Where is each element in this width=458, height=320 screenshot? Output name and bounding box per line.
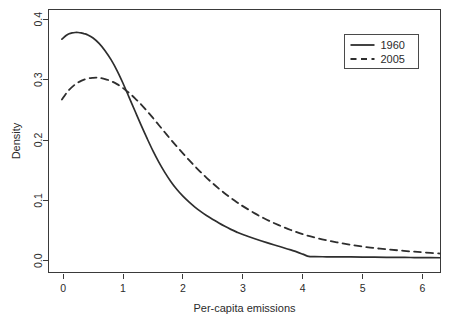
x-tick-label: 5 [360, 282, 366, 294]
series-line-2005 [62, 78, 441, 254]
y-axis-title: Density [10, 122, 22, 159]
y-tick-label: 0.2 [33, 133, 45, 148]
x-tick-label: 6 [420, 282, 426, 294]
y-tick-label: 0.4 [33, 12, 45, 27]
x-tick-label: 3 [240, 282, 246, 294]
legend-group: 19602005 [345, 35, 419, 69]
x-tick-label: 4 [300, 282, 306, 294]
x-tick-label: 1 [120, 282, 126, 294]
y-tick-label: 0.3 [33, 72, 45, 87]
y-tick-label: 0.1 [33, 193, 45, 208]
x-tick-label: 0 [60, 282, 66, 294]
x-axis-title: Per-capita emissions [193, 302, 296, 314]
chart-figure: 01234560.00.10.20.30.4 Per-capita emissi… [0, 0, 458, 320]
x-tick-label: 2 [180, 282, 186, 294]
density-plot-svg: 01234560.00.10.20.30.4 Per-capita emissi… [0, 0, 458, 320]
legend-label-2005: 2005 [381, 53, 405, 65]
y-tick-label: 0.0 [33, 253, 45, 268]
legend-label-1960: 1960 [381, 39, 405, 51]
